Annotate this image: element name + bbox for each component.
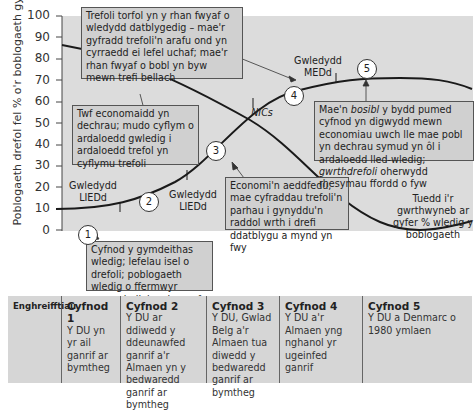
- examples-row-header: Enghreifftiau: [8, 296, 62, 383]
- annotation-stage-1: Cyfnod y gymdeithas wledig; lefelau isel…: [86, 241, 213, 291]
- stage-marker-5: 5: [357, 59, 377, 79]
- stage-marker-1: 1: [78, 225, 98, 245]
- examples-column: Cyfnod 2 Y DU ar ddiwedd y ddeunawfed ga…: [121, 296, 207, 383]
- rural-trend-label: Tuedd i'r gwrthwyneb ar gyfer % wledig y…: [388, 193, 474, 241]
- label-ledc-2: Gwledydd LIEDd: [168, 189, 218, 213]
- annotation-stage-5: Mae'n bosibl y bydd pumed cyfnod yn digw…: [314, 101, 474, 161]
- stage-marker-2: 2: [139, 192, 159, 212]
- label-nics: NICs: [247, 107, 277, 119]
- examples-column: Cyfnod 4 Y DU a'r Almaen yng nghanol yr …: [280, 296, 363, 383]
- annotation-mass-urbanization: Trefoli torfol yn y rhan fwyaf o wledydd…: [81, 7, 243, 79]
- examples-column: Cyfnod 5 Y DU a Denmarc o 1980 ymlaen: [363, 296, 472, 383]
- examples-table: Enghreifftiau Cyfnod 1 Y DU yn yr ail ga…: [8, 296, 472, 383]
- stage-marker-3: 3: [206, 141, 226, 161]
- annotation-stage-2: Twf economaidd yn dechrau; mudo cyflym o…: [72, 105, 199, 165]
- label-ledc-1: Gwledydd LIEDd: [68, 180, 118, 204]
- label-medc: Gwledydd MEDd: [293, 55, 343, 79]
- examples-column: Cyfnod 3 Y DU, Gwlad Belg a'r Almaen tua…: [207, 296, 280, 383]
- stage-marker-4: 4: [284, 86, 304, 106]
- examples-column: Cyfnod 1 Y DU yn yr ail ganrif ar bymthe…: [62, 296, 121, 383]
